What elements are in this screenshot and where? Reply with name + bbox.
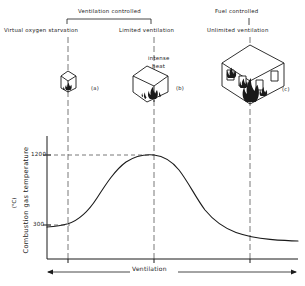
- temperature-curve: [47, 155, 298, 241]
- label-fuel-controlled: Fuel controlled: [215, 9, 258, 14]
- stage-marker-b: (b): [176, 86, 184, 91]
- annotation-intense-heat-line2: heat: [152, 64, 165, 69]
- figure-canvas: [0, 0, 305, 286]
- y-axis-tick-300: 300: [33, 222, 44, 228]
- label-ventilation-controlled: Ventilation controlled: [78, 9, 141, 14]
- label-virtual-oxygen-starvation: Virtual oxygen starvation: [4, 28, 78, 33]
- y-axis-label: Combustion gas temperature: [22, 120, 30, 280]
- plot-axes: [43, 136, 298, 263]
- stage-marker-a: (a): [91, 86, 99, 91]
- y-axis-unit-label: (°C): [11, 186, 17, 220]
- fire-ventilation-figure: Ventilation controlled Fuel controlled V…: [0, 0, 305, 286]
- ventilation-controlled-bracket: [67, 19, 151, 24]
- ventilation-axis-arrow: [47, 270, 297, 275]
- x-axis-label: Ventilation: [132, 266, 167, 272]
- annotation-intense-heat-line1: intense: [148, 56, 170, 61]
- label-limited-ventilation: Limited ventilation: [119, 28, 174, 33]
- stage-marker-c: (c): [282, 87, 290, 92]
- label-unlimited-ventilation: Unlimited ventilation: [207, 28, 269, 33]
- y-axis-tick-1200: 1200: [31, 152, 46, 158]
